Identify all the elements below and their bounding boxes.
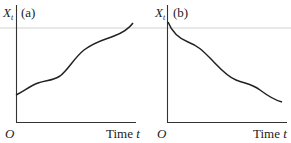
panel-a-x-label: Time t — [106, 127, 140, 140]
panel-a-label: (a) — [21, 6, 35, 19]
diagram-canvas — [0, 0, 291, 143]
panel-a-y-label: Xt — [3, 6, 13, 22]
panel-b-x-label: Time t — [253, 127, 287, 140]
panel-b-curve — [168, 22, 282, 102]
panel-b-y-label: Xt — [155, 6, 165, 22]
panel-b-origin-label: O — [157, 127, 166, 140]
panel-a-origin-label: O — [5, 127, 14, 140]
panel-b-label: (b) — [173, 6, 188, 19]
panel-a-curve — [16, 23, 133, 95]
